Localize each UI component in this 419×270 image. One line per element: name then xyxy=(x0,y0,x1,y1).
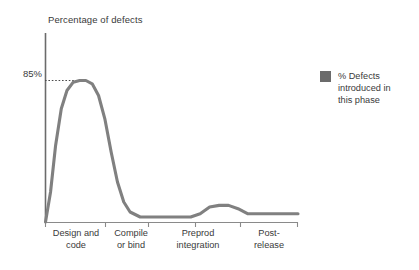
chart-legend: % Defects introduced in this phase xyxy=(320,70,391,106)
chart-figure: Percentage of defects 85% Design and cod… xyxy=(0,0,419,270)
chart-title: Percentage of defects xyxy=(48,14,143,25)
x-axis-label-preprod-integration: Preprod integration xyxy=(162,228,234,251)
series-line-defects xyxy=(46,81,299,223)
x-axis-label-post-release: Post- release xyxy=(240,228,298,251)
y-axis-tick-label-85: 85% xyxy=(12,68,42,79)
legend-color-swatch xyxy=(320,71,331,82)
legend-entry-label: % Defects introduced in this phase xyxy=(338,70,391,106)
x-axis-label-design-and-code: Design and code xyxy=(45,228,107,251)
x-axis-label-compile-or-bind: Compile or bind xyxy=(107,228,155,251)
